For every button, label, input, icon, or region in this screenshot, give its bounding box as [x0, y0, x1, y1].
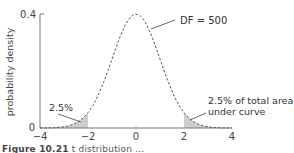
figure-caption-text: t distribution ...: [72, 144, 145, 153]
left-tail-shaded-area: [40, 113, 88, 128]
x-tick-label: 0: [133, 131, 139, 142]
x-tick-label: −4: [33, 131, 48, 142]
right-tail-leader-line: [190, 113, 206, 120]
x-tick-label: 4: [229, 131, 235, 142]
df-leader-line: [151, 20, 175, 29]
df-label: DF = 500: [180, 15, 227, 26]
x-tick-label: −2: [81, 131, 96, 142]
left-tail-leader-line: [58, 114, 81, 122]
t-distribution-chart: 0.4 0 probability density −4 −2 0 2 4 DF…: [0, 0, 294, 153]
y-axis-label: probability density: [4, 27, 15, 116]
figure-caption: Figure 10.21 t distribution ...: [2, 144, 144, 153]
figure-number: Figure 10.21: [2, 144, 69, 153]
left-tail-label: 2.5%: [49, 102, 73, 113]
x-tick-label: 2: [181, 131, 187, 142]
y-tick-label-top: 0.4: [20, 9, 36, 20]
right-tail-label-line2: under curve: [208, 106, 266, 117]
right-tail-label-line1: 2.5% of total area: [208, 95, 293, 106]
